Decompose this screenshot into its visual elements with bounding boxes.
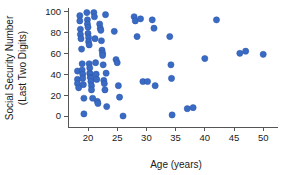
data-point <box>102 87 108 93</box>
data-point <box>86 42 92 48</box>
x-axis-title: Age (years) <box>150 159 202 170</box>
x-tick-label: 50 <box>258 132 269 143</box>
data-point <box>92 60 98 66</box>
data-point <box>137 16 143 22</box>
data-point <box>102 12 108 18</box>
data-point <box>149 17 155 23</box>
chart-background <box>0 0 285 175</box>
data-point <box>168 62 174 68</box>
y-tick-label: 20 <box>50 90 61 101</box>
data-point <box>78 46 84 52</box>
data-point <box>98 27 104 33</box>
y-axis-title-line1: Social Security Number <box>4 15 15 120</box>
data-point <box>151 25 157 31</box>
data-point <box>103 70 109 76</box>
data-point <box>202 55 208 61</box>
data-point <box>84 9 90 15</box>
data-point <box>81 111 87 117</box>
x-tick-label: 35 <box>170 132 181 143</box>
data-point <box>116 94 122 100</box>
data-point <box>85 24 91 30</box>
data-point <box>88 87 94 93</box>
x-tick-label: 20 <box>83 132 94 143</box>
data-point <box>168 75 174 81</box>
data-point <box>79 61 85 67</box>
data-point <box>81 95 87 101</box>
data-point <box>169 112 175 118</box>
data-point <box>95 100 101 106</box>
y-tick-label: 0 <box>56 110 61 121</box>
data-point <box>94 76 100 82</box>
x-tick-label: 25 <box>112 132 123 143</box>
data-point <box>243 48 249 54</box>
data-point <box>213 17 219 23</box>
data-point <box>167 33 173 39</box>
data-point <box>144 78 150 84</box>
scatter-plot-figure: 020406080100 20253035404550 Age (years) … <box>0 0 285 175</box>
y-tick-label: 40 <box>50 69 61 80</box>
x-tick-label: 30 <box>141 132 152 143</box>
data-point <box>260 51 266 57</box>
data-point <box>152 83 158 89</box>
data-point <box>80 75 86 81</box>
data-point <box>190 105 196 111</box>
data-point <box>92 36 98 42</box>
data-point <box>100 62 106 68</box>
data-point <box>237 50 243 56</box>
y-tick-label: 60 <box>50 48 61 59</box>
scatter-chart: 020406080100 20253035404550 Age (years) … <box>0 0 285 175</box>
data-point <box>98 38 104 44</box>
data-point <box>111 28 117 34</box>
data-point <box>101 81 107 87</box>
data-point <box>91 14 97 20</box>
x-tick-label: 45 <box>229 132 240 143</box>
data-point <box>100 52 106 58</box>
data-point <box>77 18 83 24</box>
data-point <box>120 113 126 119</box>
data-point <box>114 60 120 66</box>
data-point <box>115 83 121 89</box>
y-tick-label: 80 <box>50 27 61 38</box>
data-point <box>134 33 140 39</box>
data-point <box>80 82 86 88</box>
data-point <box>104 103 110 109</box>
y-tick-label: 100 <box>45 6 61 17</box>
data-point <box>78 36 84 42</box>
y-axis-title-line2: (Last Two Digits) <box>17 31 28 105</box>
data-point <box>184 106 190 112</box>
x-tick-label: 40 <box>200 132 211 143</box>
